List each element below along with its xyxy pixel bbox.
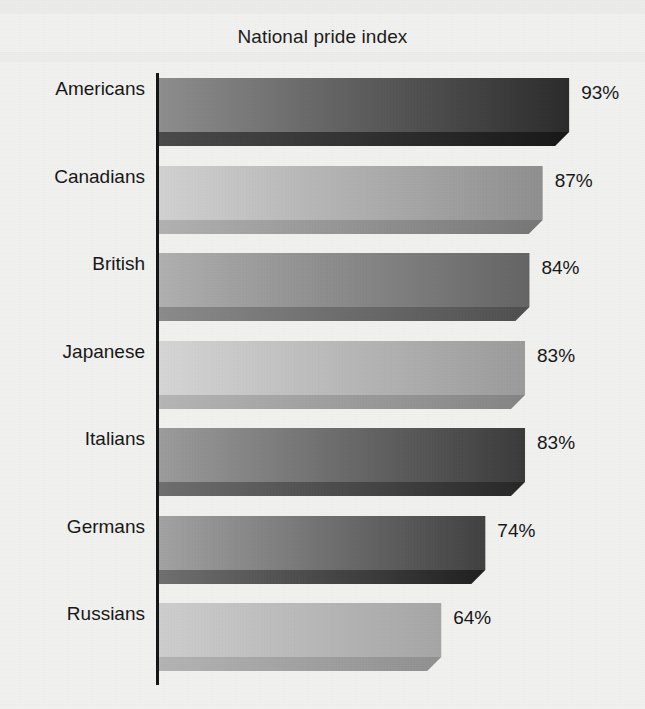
bar-row: Canadians87% [0, 150, 645, 238]
bar-shape [159, 78, 571, 146]
bar-shape [159, 516, 487, 584]
bar-row: Japanese83% [0, 325, 645, 413]
bar-category-label: Italians [0, 428, 145, 450]
bar-category-label: Canadians [0, 166, 145, 188]
bar-shape [159, 603, 443, 671]
bar-category-label: Germans [0, 516, 145, 538]
bar-front-face [159, 166, 543, 220]
bar-shape [159, 253, 531, 321]
bar-category-label: Japanese [0, 341, 145, 363]
bar-front-face [159, 516, 485, 570]
bar-front-face [159, 428, 525, 482]
bar-value-label: 64% [453, 607, 491, 629]
bar-value-label: 83% [537, 432, 575, 454]
bar-shape [159, 341, 527, 409]
bar-shape [159, 428, 527, 496]
bar-value-label: 87% [555, 170, 593, 192]
bar-bottom-face [159, 219, 543, 233]
bar-row: British84% [0, 237, 645, 325]
plot-area: Americans93%Canadians87%British84%Japane… [0, 0, 645, 709]
bar-chart: National pride index Americans93%Canadia… [0, 0, 645, 709]
bar-row: Americans93% [0, 62, 645, 150]
bar-value-label: 74% [497, 520, 535, 542]
bar-bottom-face [159, 482, 525, 496]
bar-row: Russians64% [0, 587, 645, 675]
bar-row: Italians83% [0, 412, 645, 500]
bar-category-label: Russians [0, 603, 145, 625]
bar-bottom-face [159, 307, 529, 321]
bar-bottom-face [159, 132, 569, 146]
bar-front-face [159, 78, 569, 132]
bar-shape [159, 166, 545, 234]
bar-value-label: 84% [541, 257, 579, 279]
bar-bottom-face [159, 569, 485, 583]
bar-bottom-face [159, 394, 525, 408]
bar-category-label: Americans [0, 78, 145, 100]
bar-category-label: British [0, 253, 145, 275]
bar-front-face [159, 341, 525, 395]
bar-front-face [159, 603, 441, 657]
bar-front-face [159, 253, 529, 307]
bar-bottom-face [159, 657, 441, 671]
bar-row: Germans74% [0, 500, 645, 588]
bar-value-label: 83% [537, 345, 575, 367]
bar-value-label: 93% [581, 82, 619, 104]
